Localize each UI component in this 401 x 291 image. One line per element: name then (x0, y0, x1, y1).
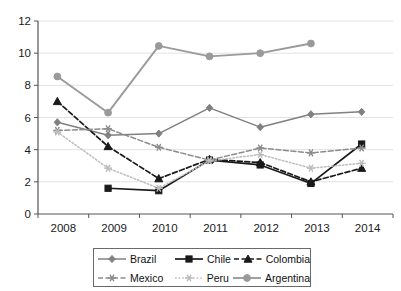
chart-legend: Brazil Chile Colombia Mexico Peru A (93, 248, 311, 287)
legend-item-mexico[interactable]: Mexico (97, 272, 174, 284)
legend-swatch-chile (174, 253, 204, 265)
legend-swatch-brazil (97, 253, 127, 265)
svg-text:10: 10 (18, 47, 31, 59)
svg-text:12: 12 (18, 15, 31, 27)
legend-item-chile[interactable]: Chile (174, 253, 233, 265)
svg-text:0: 0 (25, 208, 31, 220)
svg-text:2011: 2011 (203, 222, 228, 234)
legend-label-colombia: Colombia (266, 253, 310, 265)
legend-label-argentina: Argentina (265, 272, 310, 284)
legend-row: Mexico Peru Argentina (94, 268, 310, 287)
svg-text:2012: 2012 (253, 222, 279, 234)
legend-item-argentina[interactable]: Argentina (232, 272, 310, 284)
legend-item-colombia[interactable]: Colombia (233, 253, 310, 265)
svg-text:2013: 2013 (304, 222, 330, 234)
svg-text:2009: 2009 (101, 222, 127, 234)
svg-text:2014: 2014 (355, 222, 381, 234)
legend-item-brazil[interactable]: Brazil (97, 253, 174, 265)
legend-label-peru: Peru (207, 272, 229, 284)
legend-item-peru[interactable]: Peru (174, 272, 232, 284)
legend-swatch-argentina (232, 272, 262, 284)
legend-label-chile: Chile (207, 253, 231, 265)
legend-swatch-peru (174, 272, 204, 284)
svg-text:4: 4 (25, 144, 32, 156)
svg-text:2010: 2010 (152, 222, 178, 234)
legend-row: Brazil Chile Colombia (94, 249, 310, 268)
svg-text:2: 2 (25, 176, 31, 188)
legend-swatch-mexico (97, 272, 127, 284)
legend-label-mexico: Mexico (130, 272, 163, 284)
svg-text:8: 8 (25, 79, 31, 91)
line-chart: 0246810122008200920102011201220132014 Br… (0, 0, 401, 291)
legend-swatch-colombia (233, 253, 263, 265)
svg-text:2008: 2008 (51, 222, 77, 234)
svg-text:6: 6 (25, 112, 31, 124)
legend-label-brazil: Brazil (130, 253, 156, 265)
